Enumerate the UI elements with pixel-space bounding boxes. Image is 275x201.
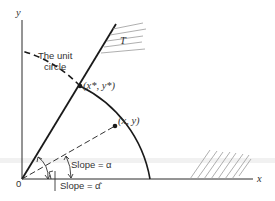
angle-arc-alpha-hat	[49, 171, 55, 191]
origin-label: 0	[16, 178, 21, 189]
slope-alpha-hat-label: Slope = α̂	[60, 180, 103, 191]
ray-slope-alpha-hat	[22, 126, 115, 179]
slope-alpha-label: Slope = α	[71, 159, 112, 170]
ray-slope-alpha	[22, 24, 116, 179]
x-axis-label: x	[256, 173, 262, 184]
unit-circle-label-line1: The unit	[38, 50, 73, 61]
region-lower-hatching	[190, 150, 251, 179]
point-marker	[113, 124, 118, 129]
point-star-marker	[78, 84, 83, 89]
point-label: (x, y)	[118, 115, 140, 127]
point-star-label: (x*, y*)	[83, 80, 116, 92]
unit-circle-diagram: y x 0 The unit circle (x*, y*) (x, y) T …	[0, 0, 275, 201]
unit-circle-label-line2: circle	[44, 61, 66, 72]
y-axis-label: y	[15, 7, 21, 18]
